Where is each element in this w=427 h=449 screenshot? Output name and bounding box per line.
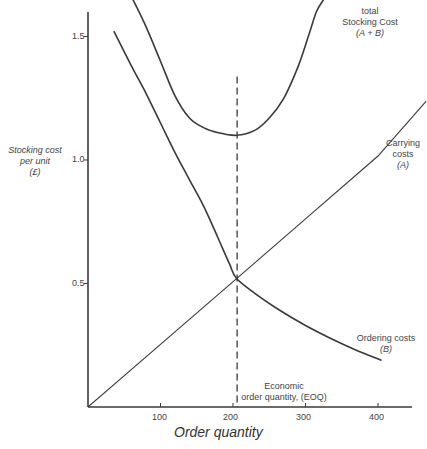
total-cost-curve <box>133 0 324 135</box>
carrying-costs-label-line: Carrying <box>380 138 426 149</box>
ordering-costs-label-line: (B) <box>348 344 424 355</box>
total-cost-label-line: total <box>330 6 410 17</box>
total-cost-label: total Stocking Cost (A + B) <box>330 6 410 39</box>
y-tick-label: 0.5 <box>72 278 85 288</box>
x-tick-label: 300 <box>296 412 311 422</box>
total-cost-label-line: (A + B) <box>330 28 410 39</box>
y-tick-label: 1.5 <box>72 31 85 41</box>
carrying-costs-label-line: (A) <box>380 160 426 171</box>
ordering-costs-curve <box>114 32 381 361</box>
x-axis-label: Order quantity <box>174 424 263 440</box>
y-axis-label-line: Stocking cost <box>0 145 70 156</box>
ordering-costs-label-line: Ordering costs <box>348 333 424 344</box>
carrying-costs-label: Carrying costs (A) <box>380 138 426 171</box>
y-axis-label-line: (£) <box>0 167 70 178</box>
eoq-label-line: Economic <box>236 381 332 392</box>
carrying-costs-label-line: costs <box>380 149 426 160</box>
y-axis-label-line: per unit <box>0 156 70 167</box>
ordering-costs-label: Ordering costs (B) <box>348 333 424 355</box>
total-cost-label-line: Stocking Cost <box>330 17 410 28</box>
carrying-costs-line <box>88 102 426 407</box>
eoq-chart <box>0 0 427 449</box>
x-tick-label: 200 <box>223 412 238 422</box>
eoq-label: Economic order quantity, (EOQ) <box>236 381 332 403</box>
x-tick-label: 400 <box>369 412 384 422</box>
y-tick-label: 1.0 <box>72 154 85 164</box>
eoq-label-line: order quantity, (EOQ) <box>236 392 332 403</box>
x-tick-label: 100 <box>152 412 167 422</box>
y-axis-label: Stocking cost per unit (£) <box>0 145 70 178</box>
